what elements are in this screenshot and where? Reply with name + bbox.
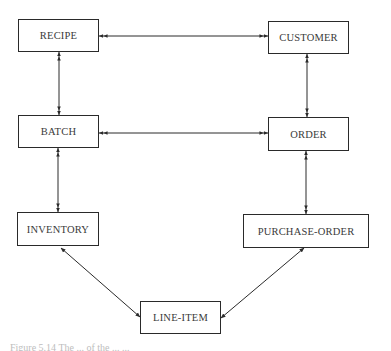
relationship-inventory-line_item [61, 248, 140, 317]
figure-caption: Figure 5.14 The ... of the ... ... [10, 343, 130, 351]
relationship-purchase_order-line_item [221, 248, 304, 318]
entity-purchase-order: PURCHASE-ORDER [243, 214, 369, 248]
entity-label: BATCH [41, 126, 76, 137]
edges-layer [58, 36, 307, 318]
entity-label: INVENTORY [27, 224, 89, 235]
entity-label: RECIPE [40, 30, 77, 41]
entity-order: ORDER [268, 117, 349, 151]
entity-label: CUSTOMER [279, 32, 338, 43]
entity-inventory: INVENTORY [17, 212, 99, 246]
entity-line-item: LINE-ITEM [140, 301, 221, 334]
entity-label: LINE-ITEM [153, 312, 208, 323]
entity-customer: CUSTOMER [268, 21, 349, 54]
entity-recipe: RECIPE [18, 19, 99, 52]
entity-batch: BATCH [18, 115, 99, 148]
entity-label: PURCHASE-ORDER [258, 226, 355, 237]
entity-label: ORDER [290, 129, 327, 140]
